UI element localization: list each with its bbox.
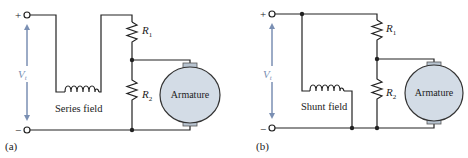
r2-label: R2	[141, 88, 153, 103]
field-label: Shunt field	[301, 101, 348, 112]
wire	[275, 14, 377, 20]
shunt-field-coil-icon	[310, 85, 344, 91]
resistor-r2-icon	[127, 60, 137, 130]
wire	[30, 126, 190, 130]
diagram-a-series: + − Vt Series field R1 R2 Armature	[5, 9, 220, 153]
field-label: Series field	[55, 103, 103, 114]
plus-sign: +	[260, 8, 266, 20]
negative-terminal	[269, 125, 275, 131]
armature-label: Armature	[415, 87, 454, 98]
positive-terminal	[24, 12, 30, 18]
resistor-r1-icon	[127, 22, 137, 60]
wire	[30, 15, 65, 92]
resistor-r1-icon	[372, 20, 382, 59]
r1-label: R1	[385, 22, 397, 37]
caption-b: (b)	[256, 140, 269, 153]
armature-motor-icon: Armature	[160, 63, 220, 126]
wire	[132, 60, 190, 63]
plus-sign: +	[15, 9, 21, 21]
positive-terminal	[269, 11, 275, 17]
wire	[302, 14, 310, 91]
diagram-b-shunt: + − Vt Shunt field R1 R2 Armature	[256, 8, 463, 153]
armature-motor-icon: Armature	[405, 62, 463, 124]
minus-sign: −	[15, 124, 21, 136]
series-field-coil-icon	[65, 86, 99, 92]
circuit-diagrams: + − Vt Series field R1 R2 Armature	[0, 0, 468, 158]
wire	[377, 59, 434, 62]
r1-label: R1	[141, 24, 153, 39]
r2-label: R2	[385, 86, 397, 101]
wire	[275, 124, 434, 128]
minus-sign: −	[260, 123, 266, 135]
caption-a: (a)	[5, 140, 18, 153]
wire	[99, 15, 132, 92]
negative-terminal	[24, 127, 30, 133]
resistor-r2-icon	[372, 59, 382, 128]
armature-label: Armature	[171, 89, 210, 100]
